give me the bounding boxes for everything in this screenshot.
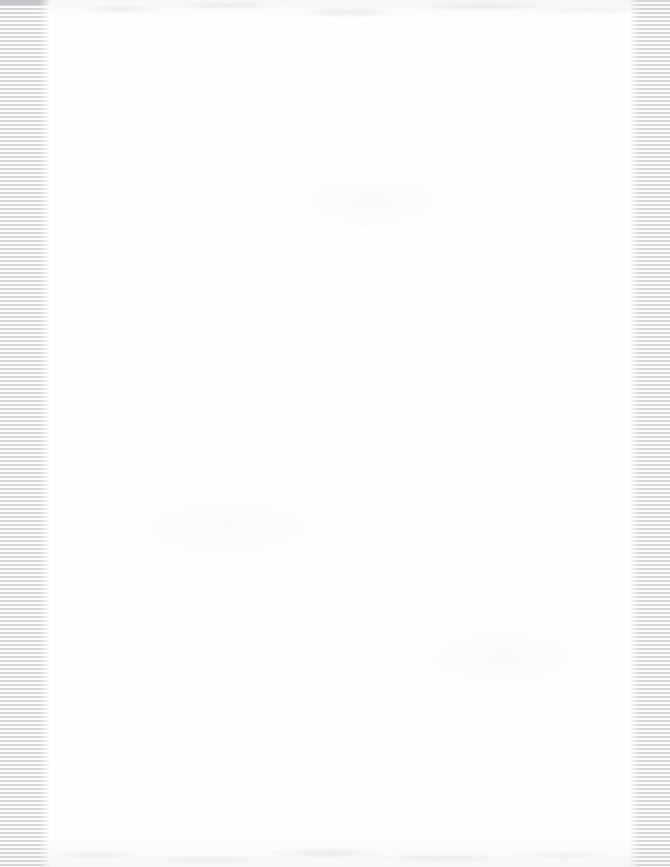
scan-stripe-band-right: [630, 0, 670, 867]
scan-band-cap: [0, 0, 53, 5]
scan-stripe-band-left: [0, 0, 53, 867]
scanned-page: [0, 0, 670, 867]
page-body: [53, 22, 630, 837]
